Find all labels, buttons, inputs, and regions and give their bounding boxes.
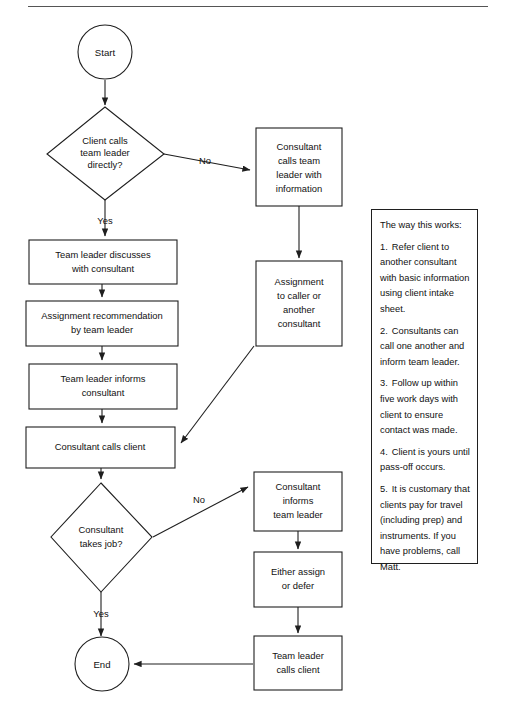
decision1-line-1: Client calls — [82, 135, 128, 146]
note-item-1-number: 1. — [380, 242, 388, 252]
node-end-label: End — [93, 659, 110, 670]
team-leader-discusses-line-2: with consultant — [71, 263, 134, 274]
note-item-3-number: 3. — [380, 378, 388, 388]
node-team-leader-calls-client[interactable]: Team leader calls client — [254, 636, 342, 690]
node-team-leader-informs-consultant[interactable]: Team leader informs consultant — [29, 364, 177, 409]
edge-label-takes-job-no: No — [193, 494, 205, 505]
node-consultant-calls-client[interactable]: Consultant calls client — [26, 427, 175, 468]
note-item-5-text: It is customary that clients pay for tra… — [380, 484, 470, 572]
consultant-calls-client-line-1: Consultant calls client — [55, 441, 146, 452]
assignment-to-caller-line-3: another — [283, 304, 315, 315]
note-item-3-text: Follow up within five work days with cli… — [380, 378, 458, 435]
either-assign-line-2: or defer — [282, 580, 314, 591]
note-item-3: 3.Follow up within five work days with c… — [380, 376, 470, 438]
assignment-to-caller-line-1: Assignment — [275, 276, 324, 287]
node-assignment-recommendation[interactable]: Assignment recommendation by team leader — [26, 301, 178, 346]
decision2-line-1: Consultant — [79, 524, 124, 535]
consultant-calls-tl-line-3: leader with — [276, 169, 321, 180]
consultant-informs-line-2: informs — [283, 495, 314, 506]
either-assign-line-1: Either assign — [271, 566, 325, 577]
team-leader-calls-client-line-1: Team leader — [272, 650, 324, 661]
edge-assignment-to-consultant-calls-client — [181, 346, 254, 443]
notes-panel: The way this works: 1.Refer client to an… — [371, 209, 478, 564]
note-item-2: 2.Consultants can call one another and i… — [380, 324, 470, 371]
note-item-1-text: Refer client to another consultant with … — [380, 242, 469, 314]
team-leader-informs-line-1: Team leader informs — [61, 373, 146, 384]
assignment-to-caller-line-2: to caller or — [277, 290, 321, 301]
decision1-line-3: directly? — [88, 159, 123, 170]
consultant-informs-line-3: team leader — [273, 509, 323, 520]
node-assignment-to-caller[interactable]: Assignment to caller or another consulta… — [256, 261, 342, 346]
node-decision-consultant-takes-job[interactable]: Consultant takes job? — [51, 483, 152, 592]
consultant-informs-line-1: Consultant — [276, 481, 321, 492]
flowchart-page: Start Client calls team leader directly?… — [0, 0, 516, 720]
edge-label-client-calls-no: No — [199, 155, 211, 166]
decision1-line-2: team leader — [80, 147, 130, 158]
team-leader-informs-line-2: consultant — [82, 387, 125, 398]
node-consultant-informs-team-leader[interactable]: Consultant informs team leader — [254, 472, 342, 531]
consultant-calls-tl-line-4: information — [276, 183, 322, 194]
team-leader-discusses-line-1: Team leader discusses — [55, 249, 151, 260]
node-end[interactable]: End — [75, 637, 129, 691]
note-item-2-text: Consultants can call one another and inf… — [380, 326, 464, 367]
assignment-recommendation-line-2: by team leader — [71, 324, 133, 335]
consultant-calls-tl-line-1: Consultant — [277, 141, 322, 152]
decision2-line-2: takes job? — [80, 538, 123, 549]
node-either-assign-or-defer[interactable]: Either assign or defer — [254, 552, 342, 607]
consultant-calls-tl-line-2: calls team — [278, 155, 320, 166]
edge-label-takes-job-yes: Yes — [93, 608, 109, 619]
note-item-2-number: 2. — [380, 326, 388, 336]
note-item-4-number: 4. — [380, 447, 388, 457]
edge-label-client-calls-yes: Yes — [97, 215, 113, 226]
assignment-to-caller-line-4: consultant — [278, 318, 321, 329]
node-start[interactable]: Start — [78, 25, 132, 79]
note-item-1: 1.Refer client to another consultant wit… — [380, 240, 470, 318]
team-leader-calls-client-line-2: calls client — [276, 664, 320, 675]
node-team-leader-discusses[interactable]: Team leader discusses with consultant — [29, 240, 177, 284]
note-item-4: 4.Client is yours until pass-off occurs. — [380, 445, 470, 476]
note-item-5-number: 5. — [380, 484, 388, 494]
note-item-4-text: Client is yours until pass-off occurs. — [380, 447, 470, 473]
node-consultant-calls-team-leader[interactable]: Consultant calls team leader with inform… — [256, 128, 342, 206]
note-item-5: 5.It is customary that clients pay for t… — [380, 482, 470, 576]
node-start-label: Start — [95, 47, 116, 58]
notes-heading: The way this works: — [380, 218, 470, 234]
assignment-recommendation-line-1: Assignment recommendation — [41, 310, 162, 321]
node-decision-client-calls-team-leader[interactable]: Client calls team leader directly? — [47, 107, 164, 200]
